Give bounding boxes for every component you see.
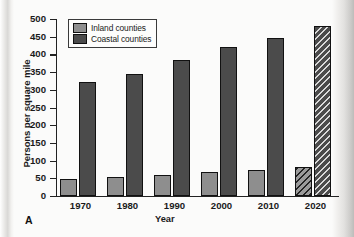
bar-inland-1970	[60, 179, 77, 196]
chart-legend: Inland counties Coastal counties	[68, 19, 157, 48]
bar-inland-2020	[295, 167, 312, 196]
y-axis-tick	[50, 108, 56, 109]
legend-label-coastal: Coastal counties	[91, 34, 151, 44]
y-axis-tick	[50, 161, 56, 162]
y-axis-tick	[50, 178, 56, 179]
bar-inland-2000	[201, 172, 218, 196]
y-axis-tick-label: 100	[2, 156, 46, 166]
y-axis-tick	[50, 90, 56, 91]
y-axis-tick	[50, 54, 56, 55]
y-axis-tick-label: 300	[2, 85, 46, 95]
bar-coastal-2000	[220, 47, 237, 196]
x-axis-line	[56, 196, 339, 197]
bar-coastal-1990	[173, 60, 190, 196]
y-axis-tick-label: 200	[2, 120, 46, 130]
y-axis-tick-label: 0	[2, 191, 46, 201]
panel-label: A	[25, 214, 33, 226]
legend-swatch-coastal-icon	[73, 34, 87, 44]
y-axis-tick	[50, 125, 56, 126]
legend-label-inland: Inland counties	[91, 23, 146, 33]
y-axis-tick	[50, 19, 56, 20]
y-axis-tick	[50, 37, 56, 38]
y-axis-tick-label: 150	[2, 138, 46, 148]
bar-group-2010	[245, 19, 292, 196]
figure-panel-a: Persons per square mile 0501001502002503…	[0, 0, 354, 237]
y-axis-tick	[50, 196, 56, 197]
y-axis-tick-label: 350	[2, 67, 46, 77]
legend-item-inland: Inland counties	[73, 22, 151, 33]
y-axis-tick	[50, 72, 56, 73]
bar-group-2020	[292, 19, 339, 196]
bar-coastal-2010	[267, 38, 284, 196]
bar-group-1990	[151, 19, 198, 196]
bar-coastal-1970	[79, 82, 96, 196]
x-axis-tick-label-2020: 2020	[286, 200, 346, 211]
y-axis-tick-label: 450	[2, 32, 46, 42]
y-axis-tick-label: 500	[2, 14, 46, 24]
bar-coastal-1980	[126, 74, 143, 196]
y-axis-tick-label: 400	[2, 49, 46, 59]
bar-coastal-2020	[314, 26, 331, 196]
bar-chart: Persons per square mile 0501001502002503…	[0, 0, 354, 237]
bar-group-2000	[198, 19, 245, 196]
legend-swatch-inland-icon	[73, 23, 87, 33]
legend-item-coastal: Coastal counties	[73, 33, 151, 44]
y-axis-tick	[50, 143, 56, 144]
y-axis-tick-label: 250	[2, 103, 46, 113]
x-axis-title: Year	[155, 214, 175, 224]
bar-inland-2010	[248, 170, 265, 196]
y-axis-tick-label: 50	[2, 173, 46, 183]
bar-inland-1990	[154, 175, 171, 196]
bar-inland-1980	[107, 177, 124, 196]
